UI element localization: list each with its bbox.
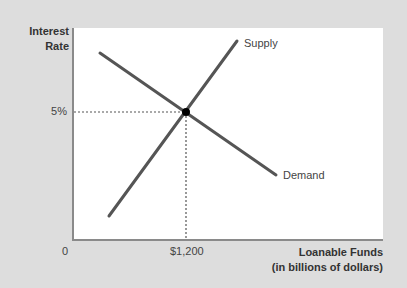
supply-label: Supply <box>244 37 278 49</box>
x-tick-1200: $1,200 <box>170 245 204 257</box>
loanable-funds-chart: Supply Demand Interest Rate 5% 0 $1,200 … <box>0 0 407 288</box>
plot-area <box>73 28 383 240</box>
demand-label: Demand <box>283 169 325 181</box>
y-axis-label-line2: Rate <box>29 39 69 54</box>
y-axis-label: Interest Rate <box>29 24 69 54</box>
x-axis-label: Loanable Funds (in billions of dollars) <box>272 245 383 275</box>
equilibrium-point <box>182 108 190 116</box>
x-axis-label-line1: Loanable Funds <box>272 245 383 260</box>
origin-tick: 0 <box>62 245 68 257</box>
y-axis-label-line1: Interest <box>29 24 69 39</box>
y-tick-5-percent: 5% <box>51 105 67 117</box>
x-axis-label-line2: (in billions of dollars) <box>272 260 383 275</box>
